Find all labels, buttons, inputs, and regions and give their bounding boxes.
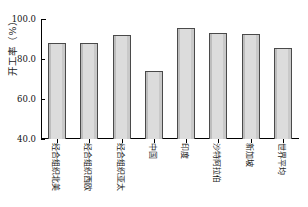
y-axis-tick-mark [41, 139, 45, 140]
bar [145, 71, 163, 139]
x-axis-category-labels: 经合组织北美经合组织西欧经合组织亚太中国印度沙特阿拉伯新加坡世界平均 [41, 143, 299, 207]
x-axis-category-label: 经合组织亚太 [113, 143, 127, 207]
y-axis-tick-mark [41, 99, 45, 100]
bar [274, 48, 292, 139]
bar-chart: 开工率（%） 40.060.080.0100.0 经合组织北美经合组织西欧经合组… [0, 0, 308, 207]
bar [177, 28, 195, 139]
y-axis-tick-label: 60.0 [4, 95, 36, 104]
bar [209, 33, 227, 139]
y-axis-tick-mark [41, 19, 45, 20]
bar-series [41, 19, 299, 139]
x-axis-category-label: 新加坡 [242, 143, 256, 207]
bar [48, 43, 66, 139]
bar [80, 43, 98, 139]
x-axis-category-label: 中国 [145, 143, 159, 207]
y-axis-tick-label: 40.0 [4, 135, 36, 144]
x-axis-category-label: 经合组织北美 [48, 143, 62, 207]
y-axis-tick-label: 100.0 [4, 15, 36, 24]
x-axis-category-label: 印度 [177, 143, 191, 207]
y-axis-tick-label: 80.0 [4, 55, 36, 64]
bar [242, 34, 260, 139]
bar [113, 35, 131, 139]
x-axis-category-label: 世界平均 [274, 143, 288, 207]
plot-area [41, 19, 299, 139]
y-axis-tick-labels: 40.060.080.0100.0 [0, 0, 36, 207]
x-axis-category-label: 经合组织西欧 [80, 143, 94, 207]
y-axis-tick-mark [41, 59, 45, 60]
x-axis-category-label: 沙特阿拉伯 [209, 143, 223, 207]
